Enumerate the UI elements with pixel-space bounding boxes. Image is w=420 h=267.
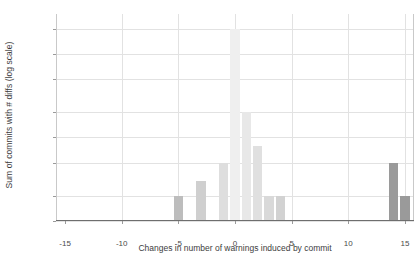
y-axis-title: Sum of commits with # diffs (log scale) [4, 42, 14, 189]
y-tick-mark [53, 221, 56, 222]
y-tick-mark [53, 112, 56, 113]
x-tick-mark [348, 221, 349, 224]
y-tick-mark [53, 137, 56, 138]
y-axis-title-container: Sum of commits with # diffs (log scale) [0, 0, 18, 230]
plot-area: 21005210521 -15-10-5051015 [56, 14, 414, 221]
x-tick-mark [292, 221, 293, 224]
x-tick-mark [122, 221, 123, 224]
x-tick-mark [65, 221, 66, 224]
x-tick-mark [178, 221, 179, 224]
y-tick-mark [53, 79, 56, 80]
x-tick-mark [235, 221, 236, 224]
x-axis-line [56, 220, 414, 221]
y-tick-mark [53, 29, 56, 30]
bar-chart-figure: Sum of commits with # diffs (log scale) … [0, 0, 420, 267]
plot-frame [56, 14, 414, 221]
y-tick-mark [53, 163, 56, 164]
x-tick-mark [405, 221, 406, 224]
x-axis-title: Changes in number of warnings induced by… [56, 243, 414, 253]
y-tick-mark [53, 54, 56, 55]
y-tick-mark [53, 196, 56, 197]
